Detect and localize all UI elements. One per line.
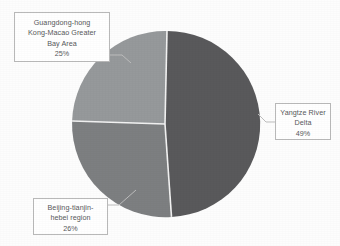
callout-guangdong-hk-macao-bay-area[interactable]: Guangdong-hong Kong-Macao Greater Bay Ar… <box>14 12 110 62</box>
callout-guangdong-line-3: Bay Area <box>18 39 106 49</box>
callout-yangtze-line-1: Yangtze River <box>279 108 327 118</box>
leader-line-yangtze <box>258 114 275 122</box>
callout-guangdong-percent: 25% <box>18 49 106 59</box>
pie-slice-yangtze-river-delta[interactable] <box>165 31 260 217</box>
callout-guangdong-line-1: Guangdong-hong <box>18 18 106 28</box>
callout-yangtze-river-delta[interactable]: Yangtze River Delta 49% <box>275 103 331 140</box>
callout-yangtze-line-2: Delta <box>279 118 327 128</box>
callout-guangdong-line-2: Kong-Macao Greater <box>18 28 106 38</box>
callout-beijing-percent: 26% <box>37 224 104 234</box>
callout-yangtze-percent: 49% <box>279 129 327 139</box>
callout-beijing-tianjin-hebei[interactable]: Beijing-tianjin- hebei region 26% <box>33 198 108 235</box>
pie-chart-figure: Guangdong-hong Kong-Macao Greater Bay Ar… <box>0 0 340 246</box>
callout-beijing-line-1: Beijing-tianjin- <box>37 203 104 213</box>
callout-beijing-line-2: hebei region <box>37 213 104 223</box>
